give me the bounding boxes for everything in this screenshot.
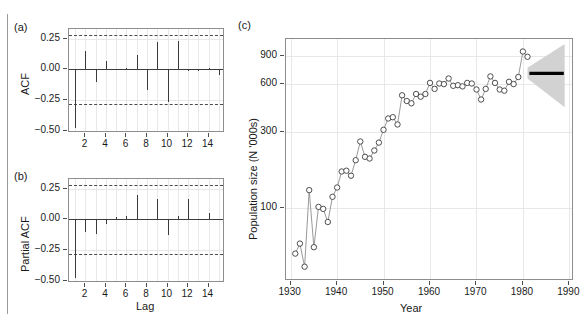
data-point-marker bbox=[293, 251, 298, 256]
data-point-marker bbox=[390, 115, 395, 120]
x-tick-label: 1950 bbox=[363, 287, 403, 297]
x-tick-label: 1990 bbox=[548, 287, 584, 297]
gridline-horizontal bbox=[69, 39, 223, 40]
acf-bar-lag-4 bbox=[106, 61, 107, 70]
acf-bar-lag-11 bbox=[178, 216, 179, 220]
x-tickmark bbox=[167, 133, 168, 137]
y-tickmark bbox=[280, 55, 284, 56]
panel-b-partial-acf: (b) Partial ACF Lag 0.250.00−0.25−0.5024… bbox=[0, 160, 240, 325]
gridline-vertical bbox=[85, 29, 86, 131]
gridline-vertical bbox=[188, 29, 189, 131]
gridline-vertical bbox=[147, 179, 148, 281]
panel-c-xlabel: Year bbox=[400, 303, 422, 314]
gridline-vertical bbox=[198, 29, 199, 131]
panel-a-plot-area bbox=[68, 28, 224, 132]
acf-bar-lag-6 bbox=[126, 216, 127, 220]
x-tickmark bbox=[187, 283, 188, 287]
x-tickmark bbox=[475, 281, 476, 285]
panel-a-ylabel: ACF bbox=[20, 73, 31, 95]
acf-bar-lag-6 bbox=[126, 68, 127, 69]
acf-bar-lag-10 bbox=[168, 219, 169, 235]
data-point-marker bbox=[516, 74, 521, 79]
x-tickmark bbox=[429, 281, 430, 285]
data-point-marker bbox=[427, 80, 432, 85]
zero-baseline bbox=[69, 219, 223, 220]
acf-bar-lag-15 bbox=[219, 219, 220, 220]
data-point-marker bbox=[483, 86, 488, 91]
y-tickmark bbox=[63, 99, 67, 100]
gridline-vertical bbox=[198, 179, 199, 281]
x-tick-label: 1970 bbox=[455, 287, 495, 297]
y-tick-label: 900 bbox=[243, 50, 277, 60]
acf-bar-lag-5 bbox=[116, 217, 117, 219]
data-point-marker bbox=[353, 158, 358, 163]
x-tickmark bbox=[146, 133, 147, 137]
acf-bar-lag-2 bbox=[85, 219, 86, 232]
x-tickmark bbox=[208, 283, 209, 287]
y-tick-label: 300 bbox=[243, 126, 277, 136]
x-tickmark bbox=[84, 133, 85, 137]
x-tickmark bbox=[125, 133, 126, 137]
y-tick-label: 0.25 bbox=[24, 33, 60, 43]
acf-bar-lag-1 bbox=[75, 219, 76, 278]
data-point-marker bbox=[358, 139, 363, 144]
gridline-horizontal bbox=[69, 250, 223, 251]
data-point-marker bbox=[502, 88, 507, 93]
y-tickmark bbox=[280, 83, 284, 84]
acf-bar-lag-2 bbox=[85, 51, 86, 69]
y-tickmark bbox=[63, 249, 67, 250]
data-point-marker bbox=[423, 91, 428, 96]
y-tick-label: −0.25 bbox=[24, 94, 60, 104]
acf-bar-lag-13 bbox=[198, 219, 199, 220]
x-tickmark bbox=[187, 133, 188, 137]
data-point-marker bbox=[321, 206, 326, 211]
y-tick-label: −0.25 bbox=[24, 244, 60, 254]
y-tick-label: 0.25 bbox=[24, 183, 60, 193]
acf-bar-lag-14 bbox=[209, 68, 210, 69]
gridline-vertical bbox=[116, 29, 117, 131]
x-tick-label: 14 bbox=[194, 289, 222, 299]
x-tickmark bbox=[105, 133, 106, 137]
forecast-confidence-band bbox=[528, 44, 565, 107]
acf-bar-lag-5 bbox=[116, 69, 117, 70]
x-tickmark bbox=[167, 283, 168, 287]
acf-bar-lag-11 bbox=[178, 41, 179, 69]
x-tick-label: 1940 bbox=[316, 287, 356, 297]
y-tickmark bbox=[63, 130, 67, 131]
confidence-bound-upper bbox=[69, 35, 223, 36]
panel-c-ylabel: Population size (N '000s) bbox=[248, 118, 259, 240]
gridline-vertical bbox=[188, 179, 189, 281]
x-tick-label: 1930 bbox=[270, 287, 310, 297]
data-point-marker bbox=[372, 148, 377, 153]
acf-bar-lag-7 bbox=[137, 195, 138, 219]
y-tick-label: −0.50 bbox=[24, 275, 60, 285]
data-point-marker bbox=[432, 86, 437, 91]
acf-bar-lag-9 bbox=[157, 42, 158, 69]
y-tickmark bbox=[63, 280, 67, 281]
gridline-vertical bbox=[137, 29, 138, 131]
gridline-horizontal bbox=[69, 100, 223, 101]
acf-bar-lag-4 bbox=[106, 219, 107, 224]
confidence-bound-lower bbox=[69, 104, 223, 105]
data-point-marker bbox=[474, 87, 479, 92]
gridline-vertical bbox=[219, 179, 220, 281]
y-tick-label: 100 bbox=[243, 202, 277, 212]
y-tick-label: −0.50 bbox=[24, 125, 60, 135]
x-tickmark bbox=[383, 281, 384, 285]
panel-c-plot-area bbox=[285, 38, 573, 280]
data-point-marker bbox=[395, 122, 400, 127]
gridline-vertical bbox=[209, 29, 210, 131]
data-point-marker bbox=[381, 127, 386, 132]
data-point-marker bbox=[478, 97, 483, 102]
acf-bar-lag-8 bbox=[147, 219, 148, 220]
data-point-marker bbox=[511, 81, 516, 86]
x-tickmark bbox=[105, 283, 106, 287]
panel-a-acf: (a) ACF 0.250.00−0.25−0.502468101214 bbox=[0, 0, 240, 160]
x-tick-label: 1960 bbox=[409, 287, 449, 297]
data-point-marker bbox=[344, 168, 349, 173]
gridline-vertical bbox=[106, 179, 107, 281]
x-tickmark bbox=[568, 281, 569, 285]
panel-a-tag: (a) bbox=[14, 22, 27, 33]
x-tickmark bbox=[522, 281, 523, 285]
data-point-marker bbox=[441, 81, 446, 86]
